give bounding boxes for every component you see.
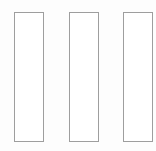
panel-1-content (15, 13, 43, 141)
panel-1[interactable] (14, 12, 44, 142)
panel-3[interactable] (123, 12, 153, 142)
panel-canvas (0, 0, 156, 151)
panel-3-content (124, 13, 152, 141)
panel-group (14, 12, 153, 142)
panel-2[interactable] (69, 12, 99, 142)
panel-2-content (70, 13, 98, 141)
